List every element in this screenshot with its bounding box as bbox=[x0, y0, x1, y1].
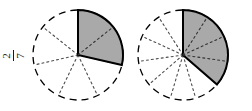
fraction-circle-two-sevenths: 2 7 bbox=[0, 0, 126, 111]
fraction-label-left: 2 7 bbox=[0, 47, 27, 65]
fraction-denominator-left: 7 bbox=[15, 53, 26, 59]
shaded-sector-region bbox=[78, 10, 123, 65]
fraction-circle-four-elevenths: 4 11 bbox=[126, 0, 252, 111]
sector-spoke bbox=[43, 27, 78, 55]
shaded-sector-region bbox=[183, 10, 228, 84]
fraction-figure-canvas: 2 7 4 11 bbox=[0, 0, 252, 111]
fraction-numerator-left: 2 bbox=[1, 53, 12, 59]
sector-spoke bbox=[138, 55, 183, 61]
sector-spoke bbox=[159, 17, 183, 55]
sector-spoke bbox=[78, 55, 98, 96]
sector-spoke bbox=[58, 55, 78, 96]
sector-spoke bbox=[149, 55, 183, 84]
sector-spoke bbox=[170, 55, 183, 98]
pie-chart-right-svg bbox=[126, 0, 252, 111]
sector-spoke bbox=[34, 55, 78, 65]
